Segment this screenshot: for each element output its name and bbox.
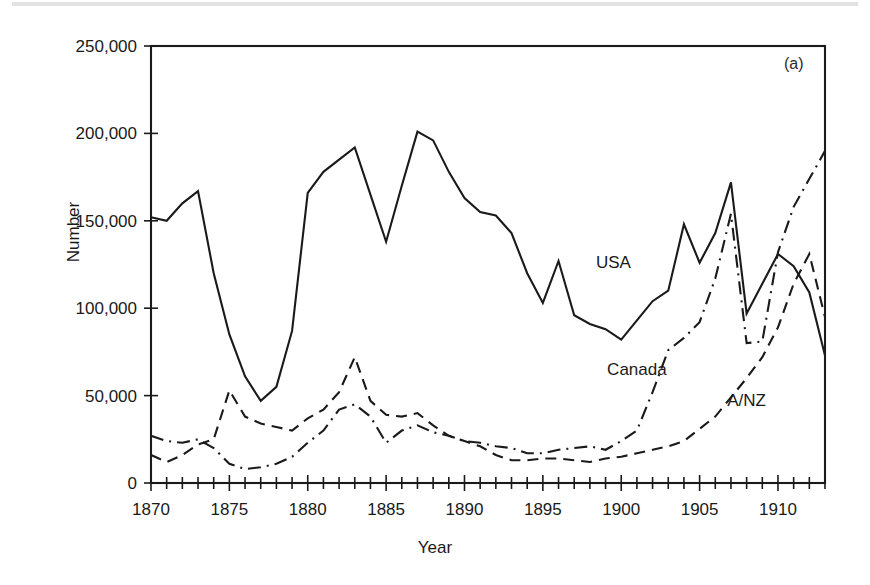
y-axis-label-wrapper: Number xyxy=(64,172,84,292)
y-axis-tick-labels: 050,000100,000150,000200,000250,000 xyxy=(76,37,137,493)
x-tick-label: 1910 xyxy=(759,500,797,519)
series-label-anz: A/NZ xyxy=(727,391,766,410)
plot-frame xyxy=(151,46,825,483)
y-tick-label: 200,000 xyxy=(76,124,137,143)
x-tick-label: 1890 xyxy=(446,500,484,519)
series-label-usa: USA xyxy=(596,253,632,272)
x-tick-label: 1885 xyxy=(367,500,405,519)
x-axis-tick-labels: 187018751880188518901895190019051910 xyxy=(132,500,797,519)
y-tick-label: 50,000 xyxy=(85,387,137,406)
series-label-canada: Canada xyxy=(607,360,667,379)
x-tick-label: 1880 xyxy=(289,500,327,519)
series-line-canada xyxy=(151,151,825,469)
panel-label: (a) xyxy=(784,55,804,72)
series-line-usa xyxy=(151,132,825,401)
figure-panel-a: 050,000100,000150,000200,000250,000 1870… xyxy=(0,0,870,585)
x-tick-label: 1870 xyxy=(132,500,170,519)
x-tick-label: 1900 xyxy=(602,500,640,519)
y-tick-label: 150,000 xyxy=(76,212,137,231)
y-tick-label: 0 xyxy=(128,474,137,493)
x-tick-label: 1905 xyxy=(681,500,719,519)
x-tick-label: 1895 xyxy=(524,500,562,519)
x-tick-label: 1875 xyxy=(210,500,248,519)
x-axis-label: Year xyxy=(0,538,870,558)
y-tick-label: 100,000 xyxy=(76,299,137,318)
series-line-anz xyxy=(151,254,825,462)
y-axis-label: Number xyxy=(64,202,83,262)
line-chart: 050,000100,000150,000200,000250,000 1870… xyxy=(0,0,870,585)
y-tick-label: 250,000 xyxy=(76,37,137,56)
